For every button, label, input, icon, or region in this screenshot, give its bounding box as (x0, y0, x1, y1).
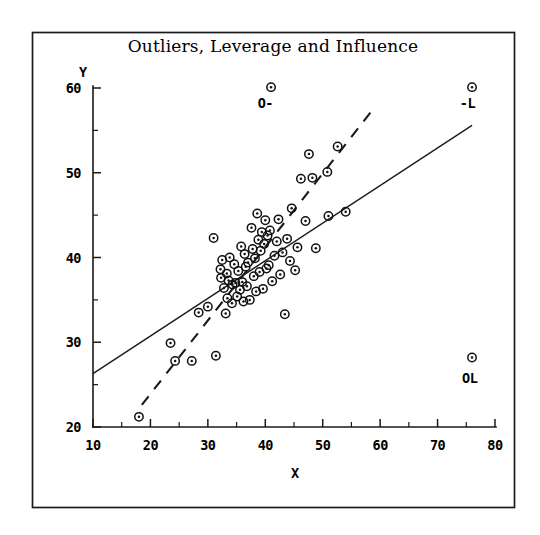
data-point-center (270, 86, 273, 89)
data-point-center (286, 238, 289, 241)
data-point-center (261, 231, 264, 234)
data-point-center (276, 240, 279, 243)
data-point-center (262, 288, 265, 291)
data-point-center (236, 295, 239, 298)
data-point-center (315, 247, 318, 250)
data-point-center (174, 360, 177, 363)
data-point-center (169, 342, 172, 345)
y-tick-label: 40 (66, 250, 82, 266)
data-point-center (237, 270, 240, 273)
data-point-center (254, 257, 257, 260)
y-tick-label: 60 (66, 80, 82, 96)
x-tick-label: 70 (430, 437, 446, 453)
data-point-center (220, 277, 223, 280)
scatter-plot-svg: 10203040506070802030405060 O--LOL Outlie… (0, 0, 540, 535)
data-point-center (215, 355, 218, 358)
x-tick-label: 60 (373, 437, 389, 453)
figure-container: 10203040506070802030405060 O--LOL Outlie… (0, 0, 540, 535)
axes (93, 86, 496, 427)
data-point-center (267, 264, 270, 267)
data-point-center (259, 249, 262, 252)
data-point-center (246, 285, 249, 288)
data-point-center (223, 287, 226, 290)
data-point-center (257, 238, 260, 241)
data-point-center (258, 271, 261, 274)
y-tick-label: 50 (66, 165, 82, 181)
chart-title: Outliers, Leverage and Influence (128, 36, 419, 56)
data-point-center (197, 311, 200, 314)
x-axis-title: X (291, 465, 299, 481)
data-point-center (308, 153, 311, 156)
x-tick-label: 30 (200, 437, 216, 453)
axis-tick-labels: 10203040506070802030405060 (66, 80, 503, 453)
data-point-center (471, 356, 474, 359)
data-point-center (240, 245, 243, 248)
data-point-center (300, 177, 303, 180)
x-tick-label: 20 (143, 437, 159, 453)
data-point-center (281, 251, 284, 254)
data-point-center (224, 312, 227, 315)
data-point-center (344, 210, 347, 213)
data-point-center (284, 313, 287, 316)
y-axis-title: Y (79, 64, 88, 80)
data-point-center (243, 253, 246, 256)
annotation-outlier-leverage-label: OL (462, 370, 478, 386)
regression-line-ols-all-data (93, 125, 472, 373)
data-point-center (290, 207, 293, 210)
data-point-center (212, 237, 215, 240)
data-point-center (233, 263, 236, 266)
data-point-center (263, 243, 266, 246)
data-point-center (228, 256, 231, 259)
data-point-center (239, 288, 242, 291)
data-point-center (256, 212, 259, 215)
data-point-center (250, 227, 253, 230)
data-point-center (221, 259, 224, 262)
data-point-center (336, 145, 339, 148)
data-point-center (255, 290, 258, 293)
data-point-center (242, 300, 245, 303)
data-point-center (311, 177, 314, 180)
data-point-center (264, 219, 267, 222)
x-tick-label: 40 (258, 437, 274, 453)
data-point-center (247, 261, 250, 264)
data-point-center (226, 272, 229, 275)
y-tick-label: 20 (66, 419, 82, 435)
annotation-leverage-label: -L (460, 95, 476, 111)
x-tick-label: 10 (85, 437, 101, 453)
data-point-center (327, 215, 330, 218)
data-point-center (253, 275, 256, 278)
data-point-center (271, 280, 274, 283)
annotation-outlier-label: O- (258, 95, 273, 111)
data-point-center (249, 299, 252, 302)
data-point-center (471, 86, 474, 89)
data-point-center (234, 282, 237, 285)
x-tick-label: 80 (487, 437, 503, 453)
data-point-center (273, 255, 276, 258)
data-point-center (277, 218, 280, 221)
data-point-center (231, 302, 234, 305)
y-tick-label: 30 (66, 334, 82, 350)
data-point-center (279, 273, 282, 276)
data-point-center (289, 260, 292, 263)
data-point-center (294, 269, 297, 272)
data-point-center (241, 281, 244, 284)
axis-ticks (93, 88, 495, 427)
data-point-center (226, 297, 229, 300)
x-tick-label: 50 (315, 437, 331, 453)
data-point-center (219, 268, 222, 271)
data-point-center (251, 248, 254, 251)
data-point-center (138, 416, 141, 419)
data-points (135, 83, 476, 421)
data-point-center (304, 220, 307, 223)
data-point-center (191, 360, 194, 363)
data-point-center (326, 171, 329, 174)
data-point-center (296, 246, 299, 249)
data-point-center (207, 305, 210, 308)
data-point-center (269, 229, 272, 232)
